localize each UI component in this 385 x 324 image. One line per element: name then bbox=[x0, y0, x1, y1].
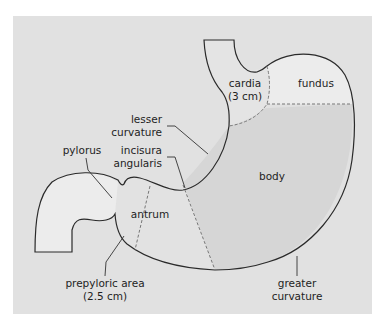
incisura-leader bbox=[167, 157, 185, 188]
label-incisura-1: incisura bbox=[121, 144, 162, 156]
label-prepyloric-2: (2.5 cm) bbox=[83, 290, 127, 302]
body-region bbox=[183, 104, 352, 270]
label-cardia-1: cardia bbox=[229, 77, 261, 89]
label-antrum: antrum bbox=[131, 208, 169, 220]
label-incisura-2: angularis bbox=[114, 157, 162, 169]
lesser-curvature-leader bbox=[167, 126, 208, 154]
label-lesser-curvature-2: curvature bbox=[111, 126, 162, 138]
duodenum-region bbox=[35, 173, 118, 252]
prepyloric-leader bbox=[105, 236, 124, 276]
label-fundus: fundus bbox=[298, 77, 334, 89]
label-greater-curvature-2: curvature bbox=[272, 290, 323, 302]
label-prepyloric-1: prepyloric area bbox=[65, 277, 144, 289]
label-lesser-curvature-1: lesser bbox=[131, 113, 163, 125]
label-body: body bbox=[259, 170, 285, 182]
label-pylorus: pylorus bbox=[63, 144, 102, 156]
stomach-diagram: cardia (3 cm) fundus lesser curvature py… bbox=[0, 0, 385, 324]
label-cardia-2: (3 cm) bbox=[228, 90, 262, 102]
label-greater-curvature-1: greater bbox=[278, 277, 317, 289]
